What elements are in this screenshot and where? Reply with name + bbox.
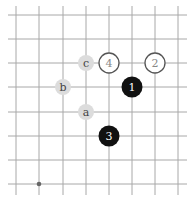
stone-number: 4	[106, 57, 113, 70]
stone-number: 2	[152, 57, 159, 70]
marker-b: b	[55, 79, 71, 95]
star-point	[37, 182, 42, 187]
board-grid	[8, 6, 187, 195]
black-stone-3: 3	[99, 126, 120, 147]
white-stone-2: 2	[145, 53, 165, 73]
stone-number: 1	[129, 81, 136, 94]
marker-c: c	[78, 55, 94, 71]
go-board-diagram: abc 1234	[0, 0, 187, 199]
black-stone-1: 1	[122, 77, 143, 98]
stone-number: 3	[106, 130, 113, 143]
marker-a: a	[78, 104, 94, 120]
marker-label: a	[83, 106, 90, 119]
star-points	[37, 182, 42, 187]
marker-label: c	[83, 57, 89, 70]
white-stone-4: 4	[99, 53, 119, 73]
marker-label: b	[59, 81, 66, 94]
